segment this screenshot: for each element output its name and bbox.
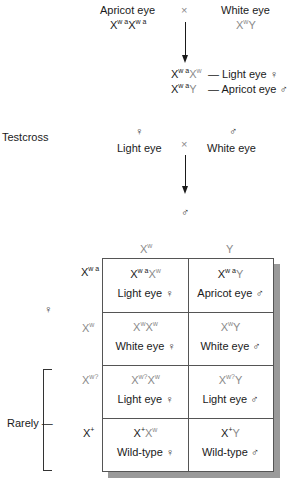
offspring-2-genotype: Xw aY bbox=[171, 83, 197, 95]
cell-xwq-y: Xw?Y Light eye ♂ bbox=[188, 365, 273, 418]
rarely-label: Rarely — bbox=[7, 417, 53, 429]
cell-xw-y: XwY White eye ♂ bbox=[188, 312, 273, 365]
female-symbol: ♀ bbox=[135, 125, 143, 137]
cell-xplus-y: X+Y Wild-type ♂ bbox=[188, 418, 273, 471]
col-header-xw: Xw bbox=[140, 243, 152, 255]
parent-female-genotype: Xw aXw a bbox=[110, 19, 147, 31]
cell-xwq-xw: Xw?Xw Light eye ♀ bbox=[103, 365, 188, 418]
arrow-down-icon bbox=[182, 55, 188, 63]
male-symbol: ♂ bbox=[229, 125, 237, 137]
row-header-xwa: Xw a bbox=[81, 266, 99, 278]
testcross-male-phenotype: White eye bbox=[207, 142, 256, 154]
row-header-xplus: X+ bbox=[83, 427, 94, 439]
offspring-1-genotype: Xw aXw bbox=[171, 68, 202, 80]
testcross-female-phenotype: Light eye bbox=[117, 142, 162, 154]
cell-xw-xw: XwXw White eye ♀ bbox=[103, 312, 188, 365]
row-header-xw-unknown: Xw? bbox=[82, 374, 98, 386]
row-side-female-symbol: ♀ bbox=[44, 303, 52, 315]
testcross-title: Testcross bbox=[2, 131, 48, 143]
arrow-line bbox=[185, 155, 186, 187]
parent-male-genotype: XwY bbox=[236, 19, 256, 31]
col-header-y: Y bbox=[226, 243, 233, 255]
cell-xwa-xw: Xw aXw Light eye ♀ bbox=[103, 259, 188, 312]
offspring-1-phenotype: — Light eye ♀ bbox=[208, 68, 278, 80]
punnett-square: Xw aXw Light eye ♀ Xw aY Apricot eye ♂ X… bbox=[102, 258, 274, 472]
parent-male-phenotype: White eye bbox=[221, 4, 270, 16]
row-header-xw: Xw bbox=[82, 322, 94, 334]
cell-xplus-xw: X+Xw Wild-type ♀ bbox=[103, 418, 188, 471]
arrow-line bbox=[185, 22, 186, 56]
offspring-2-phenotype: — Apricot eye ♂ bbox=[208, 83, 288, 95]
parent-female-phenotype: Apricot eye bbox=[100, 4, 155, 16]
cross-symbol: × bbox=[181, 4, 187, 16]
arrow-down-icon bbox=[182, 186, 188, 194]
testcross-cross-symbol: × bbox=[181, 138, 187, 150]
result-male-symbol: ♂ bbox=[181, 206, 189, 218]
cell-xwa-y: Xw aY Apricot eye ♂ bbox=[188, 259, 273, 312]
